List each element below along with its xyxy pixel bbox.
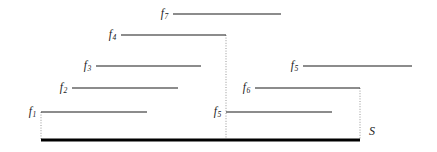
segment-subscript-f7: 7: [164, 12, 168, 21]
segment-subscript-f6: 6: [246, 86, 250, 95]
segment-subscript-f2: 2: [63, 86, 67, 95]
segment-label-f7: f7: [161, 8, 168, 20]
segment-label-f5-lower: f5: [214, 106, 221, 118]
surface-label: S: [369, 125, 375, 137]
segment-subscript-f4: 4: [112, 33, 116, 42]
segment-label-f5-right: f5: [291, 60, 298, 72]
segment-subscript-f5-lower: 5: [217, 110, 221, 119]
segment-label-f2: f2: [60, 82, 67, 94]
segment-subscript-f5-right: 5: [294, 64, 298, 73]
segment-label-f3: f3: [84, 60, 91, 72]
segment-lines-group: [41, 14, 412, 112]
segment-label-f6: f6: [243, 82, 250, 94]
segment-label-f4: f4: [109, 29, 116, 41]
segment-subscript-f3: 3: [87, 64, 91, 73]
segment-subscript-f1: 1: [32, 110, 36, 119]
interval-diagram: f7f4f3f5f2f6f1f5 S: [0, 0, 437, 152]
segment-label-f1: f1: [29, 106, 36, 118]
